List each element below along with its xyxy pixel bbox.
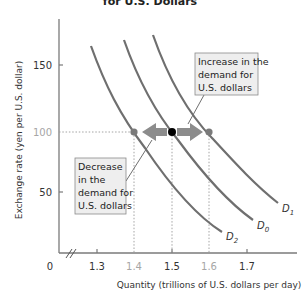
x-tick-1-5: 1.5: [164, 261, 180, 272]
curve-label-d1: D1: [282, 203, 294, 217]
y-tick-150: 150: [33, 60, 52, 71]
chart-title: for U.S. Dollars: [103, 0, 198, 8]
decrease-annotation-line-3: demand for: [78, 187, 133, 198]
chart-canvas: for U.S. Dollars Exchange rate (yen per …: [0, 0, 307, 297]
x-tick-1-3: 1.3: [89, 261, 105, 272]
x-tick-1-6: 1.6: [201, 261, 217, 272]
x-axis-title: Quantity (trillions of U.S. dollars per …: [117, 280, 302, 290]
curve-label-d0: D0: [257, 220, 270, 234]
y-tick-100: 100: [33, 127, 52, 138]
increase-annotation-line-3: U.S. dollars: [198, 82, 252, 93]
y-axis-title: Exchange rate (yen per U.S. dollar): [14, 61, 24, 220]
x-tick-0: 0: [47, 261, 53, 272]
y-tick-50: 50: [39, 187, 52, 198]
right-shift-arrow-icon: [177, 123, 203, 141]
point-equilibrium: [168, 128, 176, 136]
decrease-annotation-line-1: Decrease: [78, 161, 123, 172]
increase-annotation-line-2: demand for: [198, 69, 253, 80]
left-shift-arrow-icon: [142, 123, 167, 141]
x-tick-1-7: 1.7: [239, 261, 255, 272]
increase-annotation-line-1: Increase in the: [198, 56, 269, 67]
decrease-annotation-line-2: in the: [78, 174, 105, 185]
x-tick-1-4: 1.4: [126, 261, 142, 272]
decrease-leader-line: [126, 140, 152, 181]
point-d1: [205, 128, 212, 135]
curve-label-d2: D2: [226, 231, 239, 245]
point-d2: [130, 128, 137, 135]
decrease-annotation-line-4: U.S. dollars: [78, 200, 132, 211]
